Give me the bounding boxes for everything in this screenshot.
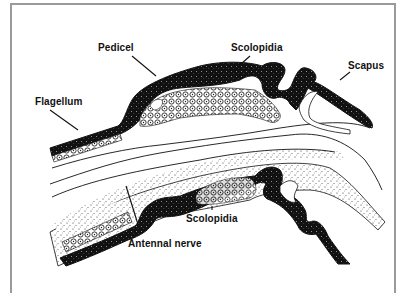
leader-scapus xyxy=(340,72,350,80)
label-flagellum: Flagellum xyxy=(35,96,83,107)
leader-pedicel xyxy=(132,56,156,76)
label-pedicel: Pedicel xyxy=(98,42,134,53)
label-scolopidia-top: Scolopidia xyxy=(231,42,283,53)
label-antennal-nerve: Antennal nerve xyxy=(128,238,202,249)
label-scolopidia-bottom: Scolopidia xyxy=(186,213,238,224)
leader-flagellum xyxy=(50,110,78,130)
label-scapus: Scapus xyxy=(348,60,384,71)
